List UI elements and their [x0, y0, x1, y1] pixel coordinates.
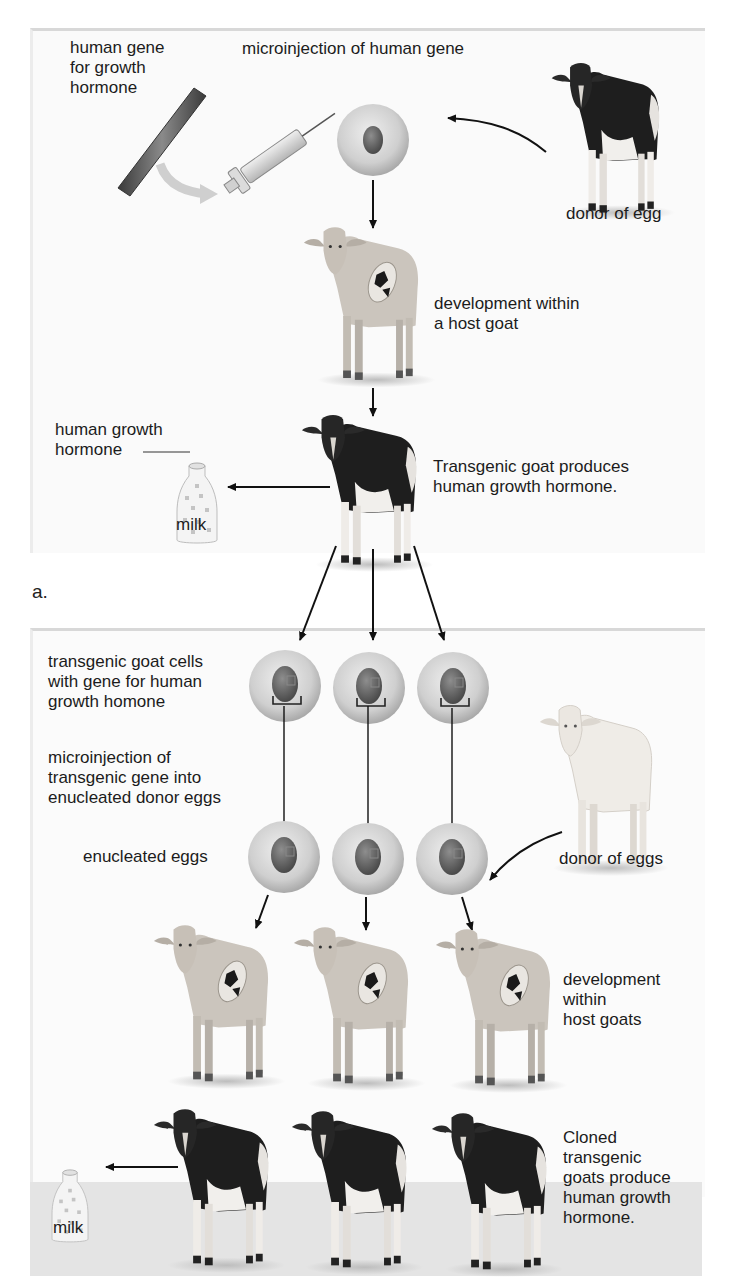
- egg-cell-top: [337, 104, 409, 176]
- label-donor-of-egg: donor of egg: [566, 204, 661, 224]
- label-milk-b: milk: [53, 1218, 83, 1238]
- label-microinjection-transgenic: microinjection of transgenic gene into e…: [48, 748, 221, 808]
- chromosome-illustration: [118, 88, 206, 196]
- label-cloned-goats: Cloned transgenic goats produce human gr…: [563, 1128, 671, 1228]
- label-transgenic-cells: transgenic goat cells with gene for huma…: [48, 652, 203, 712]
- syringe-illustration: [219, 103, 342, 200]
- label-human-growth-hormone: human growth hormone: [55, 420, 163, 460]
- diagram-illustrations: [0, 0, 738, 1277]
- label-human-gene: human gene for growth hormone: [70, 38, 165, 98]
- label-development-hosts: development within host goats: [563, 970, 660, 1030]
- label-enucleated-eggs: enucleated eggs: [83, 847, 208, 867]
- transgenic-cells: [249, 650, 489, 724]
- label-milk-a: milk: [176, 515, 206, 535]
- enucleated-eggs: [248, 821, 488, 895]
- label-microinjection: microinjection of human gene: [242, 39, 464, 59]
- part-label-a: a.: [32, 581, 48, 603]
- label-transgenic-goat: Transgenic goat produces human growth ho…: [433, 457, 629, 497]
- label-development-host: development within a host goat: [434, 294, 580, 334]
- label-donor-of-eggs: donor of eggs: [559, 849, 663, 869]
